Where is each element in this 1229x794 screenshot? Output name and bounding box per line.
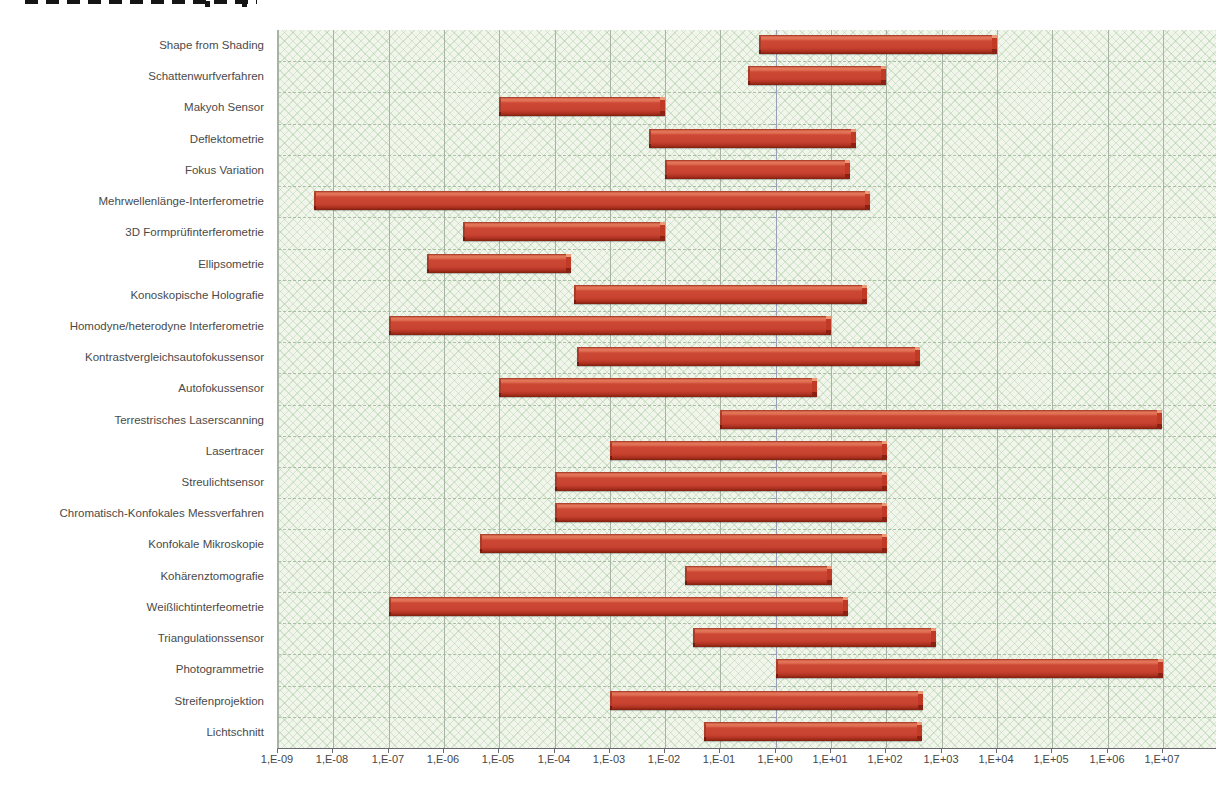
row-separator [278, 249, 1216, 250]
category-label: Deflektometrie [0, 132, 264, 146]
row-separator [278, 373, 1216, 374]
x-tick-label: 1,E-08 [305, 753, 359, 765]
row-separator [278, 92, 1216, 93]
x-tick-label: 1,E-09 [250, 753, 304, 765]
range-bar [776, 659, 1163, 678]
row-separator [278, 717, 1216, 718]
plot-area [277, 30, 1216, 749]
category-label: Konfokale Mikroskopie [0, 537, 264, 551]
x-tick-label: 1,E+01 [803, 753, 857, 765]
x-tick-label: 1,E+07 [1135, 753, 1189, 765]
range-bar [748, 66, 886, 85]
value-axis-tick [771, 342, 776, 343]
category-label: Homodyne/heterodyne Interferometrie [0, 319, 264, 333]
row-separator [278, 592, 1216, 593]
row-separator [278, 124, 1216, 125]
decade-gridline [942, 30, 943, 748]
x-tick-label: 1,E-07 [361, 753, 415, 765]
category-label: Chromatisch-Konfokales Messverfahren [0, 506, 264, 520]
range-bar [499, 378, 817, 397]
x-tick-label: 1,E-03 [582, 753, 636, 765]
category-label: Streifenprojektion [0, 694, 264, 708]
value-axis-tick [771, 623, 776, 624]
category-label: Kontrastvergleichsautofokussensor [0, 350, 264, 364]
range-bar [555, 503, 887, 522]
value-axis-tick [771, 717, 776, 718]
category-label: Mehrwellenlänge-Interferometrie [0, 194, 264, 208]
value-axis-tick [771, 186, 776, 187]
range-bar [610, 691, 923, 710]
decade-gridline [1052, 30, 1053, 748]
value-axis-tick [771, 61, 776, 62]
row-separator [278, 280, 1216, 281]
range-bar [314, 191, 870, 210]
category-label: 3D Formprüfinterferometrie [0, 225, 264, 239]
range-bar [427, 254, 571, 273]
value-axis-tick [771, 124, 776, 125]
category-label: Kohärenztomografie [0, 569, 264, 583]
x-tick-label: 1,E+00 [748, 753, 802, 765]
x-tick-label: 1,E-04 [527, 753, 581, 765]
category-label: Schattenwurfverfahren [0, 69, 264, 83]
x-tick-label: 1,E-02 [637, 753, 691, 765]
range-bar [463, 222, 665, 241]
range-bar [693, 628, 936, 647]
value-axis-tick [771, 592, 776, 593]
value-axis-tick [771, 561, 776, 562]
x-tick-label: 1,E+04 [969, 753, 1023, 765]
range-bar [389, 597, 848, 616]
decade-gridline [1163, 30, 1164, 748]
row-separator [278, 405, 1216, 406]
decade-gridline [444, 30, 445, 748]
category-label: Fokus Variation [0, 163, 264, 177]
value-axis-tick [771, 498, 776, 499]
category-label: Lichtschnitt [0, 725, 264, 739]
value-axis-tick [771, 436, 776, 437]
x-tick-label: 1,E+05 [1024, 753, 1078, 765]
category-label: Weißlichtinterfeometrie [0, 600, 264, 614]
row-separator [278, 561, 1216, 562]
category-label: Ellipsometrie [0, 257, 264, 271]
cropped-title-fragment [242, 1, 247, 7]
row-separator [278, 436, 1216, 437]
value-axis-tick [771, 92, 776, 93]
category-label: Makyoh Sensor [0, 100, 264, 114]
value-axis-tick [771, 249, 776, 250]
category-label: Streulichtsensor [0, 475, 264, 489]
range-bar [577, 347, 920, 366]
row-separator [278, 217, 1216, 218]
row-separator [278, 623, 1216, 624]
range-bar [389, 316, 831, 335]
value-axis-tick [771, 155, 776, 156]
cropped-title-fragment [205, 1, 210, 7]
range-bar [720, 410, 1162, 429]
chart-canvas: 1,E-091,E-081,E-071,E-061,E-051,E-041,E-… [0, 0, 1229, 794]
category-label: Lasertracer [0, 444, 264, 458]
row-separator [278, 529, 1216, 530]
range-bar [759, 35, 997, 54]
range-bar [665, 160, 850, 179]
category-label: Terrestrisches Laserscanning [0, 413, 264, 427]
decade-gridline [389, 30, 390, 748]
range-bar [555, 472, 887, 491]
range-bar [704, 722, 922, 741]
row-separator [278, 311, 1216, 312]
value-axis-tick [771, 373, 776, 374]
decade-gridline [278, 30, 279, 748]
value-axis-tick [771, 529, 776, 530]
value-axis-tick [771, 217, 776, 218]
row-separator [278, 155, 1216, 156]
category-label: Autofokussensor [0, 381, 264, 395]
range-bar [574, 285, 867, 304]
value-axis-tick [771, 311, 776, 312]
category-label: Photogrammetrie [0, 662, 264, 676]
decade-gridline [997, 30, 998, 748]
x-tick-label: 1,E+06 [1080, 753, 1134, 765]
row-separator [278, 686, 1216, 687]
value-axis-tick [771, 654, 776, 655]
row-separator [278, 498, 1216, 499]
decade-gridline [1108, 30, 1109, 748]
category-label: Konoskopische Holografie [0, 288, 264, 302]
row-separator [278, 654, 1216, 655]
x-tick-label: 1,E+02 [858, 753, 912, 765]
